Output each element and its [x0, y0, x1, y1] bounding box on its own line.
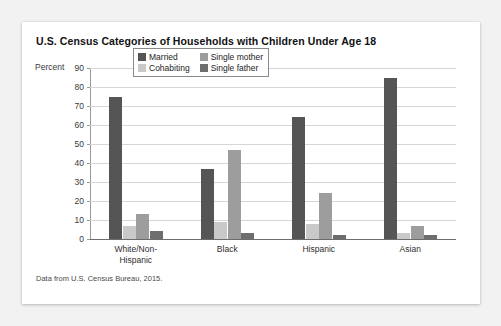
- x-axis-tick-label: Asian: [365, 244, 457, 255]
- bar: [424, 235, 437, 239]
- legend-label: Single father: [211, 63, 259, 73]
- y-axis-tick-label: 70: [58, 101, 84, 111]
- bar: [333, 235, 346, 239]
- page-title: U.S. Census Categories of Households wit…: [36, 35, 376, 47]
- y-axis-tick-label: 0: [58, 234, 84, 244]
- legend-label: Single mother: [211, 52, 263, 62]
- legend-label: Married: [149, 52, 178, 62]
- bar: [411, 226, 424, 239]
- bar: [123, 226, 136, 239]
- bar: [109, 97, 122, 240]
- bar: [292, 117, 305, 239]
- bar-group: [182, 68, 274, 239]
- y-axis-tick-label: 60: [58, 120, 84, 130]
- bar: [150, 231, 163, 239]
- plot-area: [90, 68, 456, 239]
- bar: [228, 150, 241, 239]
- legend-item: Married: [138, 52, 190, 62]
- legend-swatch-icon: [200, 53, 208, 61]
- y-axis-tick-label: 30: [58, 177, 84, 187]
- x-axis-tick-label: Black: [182, 244, 274, 255]
- bar: [306, 224, 319, 239]
- bar: [136, 214, 149, 239]
- bar-group: [273, 68, 365, 239]
- legend-item: Single father: [200, 63, 263, 73]
- page-background: U.S. Census Categories of Households wit…: [0, 0, 501, 326]
- bar-group: [90, 68, 182, 239]
- y-axis-tick-label: 80: [58, 82, 84, 92]
- chart-card: U.S. Census Categories of Households wit…: [22, 22, 480, 304]
- y-axis-tick-label: 40: [58, 158, 84, 168]
- bar: [214, 222, 227, 239]
- y-axis-tick-label: 50: [58, 139, 84, 149]
- bar: [201, 169, 214, 239]
- y-axis-tick-label: 10: [58, 215, 84, 225]
- bar: [384, 78, 397, 240]
- legend-item: Cohabiting: [138, 63, 190, 73]
- bar: [241, 233, 254, 239]
- legend-swatch-icon: [200, 64, 208, 72]
- chart-legend: MarriedSingle motherCohabitingSingle fat…: [133, 48, 269, 77]
- bar-group: [365, 68, 457, 239]
- x-axis-tick-label: White/Non-Hispanic: [90, 244, 182, 265]
- legend-item: Single mother: [200, 52, 263, 62]
- bar: [397, 233, 410, 239]
- legend-label: Cohabiting: [149, 63, 190, 73]
- legend-swatch-icon: [138, 53, 146, 61]
- bar: [319, 193, 332, 239]
- source-note: Data from U.S. Census Bureau, 2015.: [36, 274, 162, 283]
- y-axis-tick-label: 20: [58, 196, 84, 206]
- x-axis-line: [90, 239, 456, 240]
- y-axis-tick-label: 90: [58, 63, 84, 73]
- x-axis-tick-label: Hispanic: [273, 244, 365, 255]
- legend-swatch-icon: [138, 64, 146, 72]
